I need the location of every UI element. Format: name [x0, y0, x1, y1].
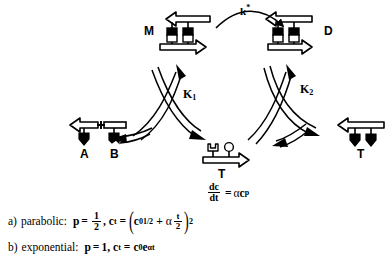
rate-law-exponent: p — [245, 188, 249, 197]
caption-a-t-num: t — [174, 212, 181, 221]
cycle-arrow-k2-return — [272, 124, 309, 147]
caption-a-close-paren: ) — [184, 210, 189, 232]
rate-law-equation: dc dt = αcp — [205, 182, 249, 203]
caption-a-p-fraction: 1 2 — [92, 211, 101, 232]
caption-b-comma: , — [107, 241, 110, 253]
caption-a-comma: , — [103, 215, 106, 227]
caption-b-e-sup: αt — [148, 243, 155, 252]
caption-a-open-paren: ( — [129, 210, 134, 232]
species-label-A: A — [80, 148, 89, 160]
k-star-sup: * — [246, 3, 250, 12]
caption-b-p: p — [84, 241, 90, 253]
rate-law-fraction: dc dt — [207, 182, 221, 203]
cycle-arrow-k1-up — [133, 64, 186, 140]
rate-law-numerator: dc — [207, 182, 221, 192]
rate-law-denominator: dt — [208, 192, 221, 203]
caption-line-b: b) exponential: p = 1 , ct = c0eαt — [8, 241, 193, 253]
species-glyph-A — [70, 118, 98, 145]
caption-b-name: exponential: — [22, 241, 79, 253]
caption-b-eq1: = — [93, 241, 100, 253]
figure-canvas: M D A B T T k* K1 K2 dc dt = αcp a) para… — [0, 0, 392, 265]
species-label-D: D — [324, 25, 333, 37]
caption-a-eq2: = — [120, 215, 127, 227]
caption-b-c-sub: t — [118, 243, 121, 252]
caption-a-marker: a) — [8, 215, 17, 227]
caption-a-p-num: 1 — [92, 211, 101, 221]
species-glyph-T-center — [203, 143, 249, 167]
k2-sub: 2 — [309, 88, 313, 97]
rate-label-k2: K2 — [300, 83, 313, 97]
caption-a-p: p — [73, 215, 79, 227]
rate-law-equals: = — [225, 187, 232, 199]
caption-b-eq2: = — [124, 241, 131, 253]
species-label-T-right: T — [357, 148, 364, 160]
species-label-B: B — [110, 148, 119, 160]
caption-a-alpha: α — [166, 215, 172, 227]
rate-label-k1: K1 — [183, 88, 196, 102]
species-label-M: M — [144, 25, 154, 37]
caption-a-plus: + — [156, 215, 163, 227]
caption-a-power: 2 — [189, 217, 193, 226]
species-label-T-center: T — [218, 168, 225, 180]
species-glyph-T-right — [338, 118, 384, 146]
caption-a-c0-sup: 1/2 — [143, 217, 153, 226]
caption-a-p-den: 2 — [92, 221, 101, 232]
cycle-arrow-k2-up — [248, 64, 296, 144]
caption-line-a: a) parabolic: p = 1 2 , ct = ( c01/2 + α… — [8, 210, 193, 232]
caption-a-c-sub: t — [114, 217, 117, 226]
species-glyph-M — [160, 12, 210, 54]
caption-a-t-den: 2 — [174, 221, 183, 231]
caption-a-t-fraction: t 2 — [174, 212, 183, 231]
k1-sub: 1 — [192, 93, 196, 102]
k1-base: K — [183, 87, 192, 101]
caption-b-marker: b) — [8, 241, 18, 253]
k2-base: K — [300, 82, 309, 96]
rate-label-k-star: k* — [240, 4, 250, 17]
caption-a-name: parabolic: — [21, 215, 67, 227]
caption-a-eq1: = — [81, 215, 88, 227]
